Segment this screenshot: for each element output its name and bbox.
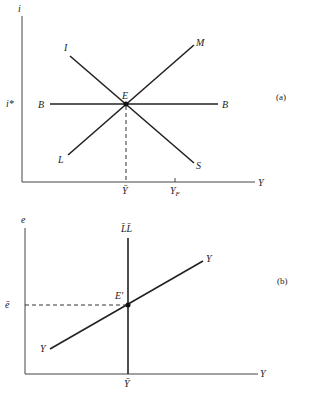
is-curve [70,56,194,163]
lm-start-label: L [57,154,64,165]
lm-curve [68,45,194,155]
panel-b-y-axis-label: e [21,214,26,225]
is-end-label: S [196,160,201,171]
panel-a-y-bar-label: Ȳ [122,185,129,196]
y-f-label: YF [170,185,181,198]
equilibrium-point-e [124,102,129,107]
panel-b-label: (b) [277,276,288,286]
panel-a-y-axis-label: i [18,3,21,14]
panel-a-x-axis-label: Y [258,177,265,188]
equilibrium-point-e-prime [126,303,131,308]
panel-b-y-bar-label: Ȳ [124,378,131,389]
yy-start-label: Y [40,343,47,354]
equilibrium-label-e: E [121,90,128,101]
is-start-label: I [63,42,68,53]
yy-end-label: Y [206,253,213,264]
e-bar-label: ē [5,299,10,310]
panel-a-label: (a) [276,92,286,102]
ll-label: L̄L̄ [120,223,133,234]
panel-b: e Y L̄L̄ Y Y ē E′ Ȳ (b) [5,214,288,389]
panel-a: i Y i* B B I S L M E Ȳ YF (a) [6,3,286,198]
bb-left-label: B [38,99,44,110]
i-star-label: i* [6,98,14,109]
bb-right-label: B [222,99,228,110]
panel-b-x-axis-label: Y [260,368,267,379]
equilibrium-label-e-prime: E′ [114,290,124,301]
diagram-canvas: i Y i* B B I S L M E Ȳ YF (a) e Y L̄L̄ Y… [0,0,314,395]
lm-end-label: M [195,37,205,48]
